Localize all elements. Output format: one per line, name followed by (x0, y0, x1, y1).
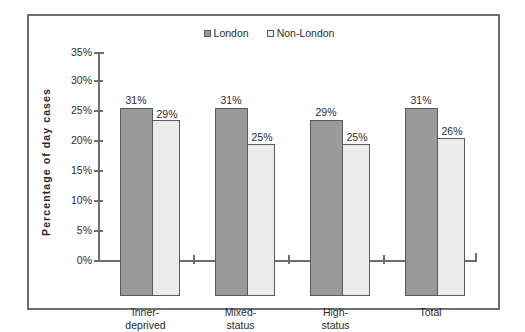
bar-group-inner-deprived: 31% 29% Inner- deprived (98, 88, 193, 298)
bar-non-london-inner-deprived[interactable] (152, 120, 180, 296)
y-axis-title: Percentage of day cases (40, 0, 54, 62)
bar-london-mixed-status[interactable] (215, 108, 248, 296)
legend-label-london: London (214, 28, 249, 39)
y-tick-label: 35% (71, 46, 92, 58)
plot-area: 0% 5% 10% 15% 20% 25% 30% 35% (98, 52, 486, 298)
bar-value-label-non-london: 29% (150, 109, 184, 120)
bar-value-label-non-london: 25% (245, 132, 279, 143)
legend-label-non-london: Non-London (277, 28, 335, 39)
x-category-label-line2: deprived (98, 319, 193, 332)
bar-london-high-status[interactable] (310, 120, 343, 296)
y-tick-label: 0% (77, 254, 92, 266)
chart-legend: London Non-London (139, 24, 399, 42)
y-tick-label: 25% (71, 104, 92, 116)
y-tick-label: 20% (71, 134, 92, 146)
legend-item-london[interactable]: London (204, 28, 249, 39)
legend-swatch-light-gray-icon (267, 30, 274, 37)
bar-value-label-non-london: 26% (435, 126, 469, 137)
x-category-label-high-status: High- status (288, 306, 383, 332)
bar-london-inner-deprived[interactable] (120, 108, 153, 296)
y-tick-mark (94, 80, 103, 82)
figure-frame: London Non-London Percentage of day case… (27, 14, 500, 310)
y-tick-label: 10% (71, 194, 92, 206)
bar-non-london-total[interactable] (437, 138, 465, 296)
bar-value-label-non-london: 25% (340, 132, 374, 143)
x-category-label-total: Total (383, 306, 478, 319)
y-axis-title-text: Percentage of day cases (40, 62, 52, 262)
x-category-label-line1: Total (383, 306, 478, 319)
y-tick-label: 30% (71, 74, 92, 86)
legend-item-non-london[interactable]: Non-London (267, 28, 335, 39)
x-category-label-mixed-status: Mixed- status (193, 306, 288, 332)
bar-non-london-mixed-status[interactable] (247, 144, 275, 296)
bar-group-high-status: 29% 25% High- status (288, 88, 383, 298)
bar-value-label-london: 31% (211, 95, 251, 106)
x-category-label-line1: High- (288, 306, 383, 319)
y-tick-label: 15% (71, 164, 92, 176)
x-category-label-line2: status (288, 319, 383, 332)
bar-value-label-london: 31% (401, 95, 441, 106)
bar-group-mixed-status: 31% 25% Mixed- status (193, 88, 288, 298)
bar-non-london-high-status[interactable] (342, 144, 370, 296)
bar-value-label-london: 31% (116, 95, 156, 106)
x-category-label-line1: Mixed- (193, 306, 288, 319)
bar-group-total: 31% 26% Total (383, 88, 478, 298)
y-axis-top-cap (94, 52, 104, 54)
bar-value-label-london: 29% (306, 107, 346, 118)
bar-london-total[interactable] (405, 108, 438, 296)
x-category-label-line1: Inner- (98, 306, 193, 319)
legend-swatch-dark-gray-icon (204, 30, 211, 37)
x-category-label-inner-deprived: Inner- deprived (98, 306, 193, 332)
x-category-label-line2: status (193, 319, 288, 332)
y-tick-label: 5% (77, 224, 92, 236)
